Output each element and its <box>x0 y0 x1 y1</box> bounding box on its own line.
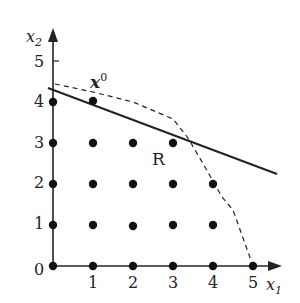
y-tick-label-3: 3 <box>34 133 44 152</box>
x-tick-label-3: 3 <box>168 273 178 292</box>
x-axis-label: x1 <box>266 275 282 297</box>
y-tick-label-5: 5 <box>34 52 44 71</box>
axes <box>48 28 282 271</box>
y-tick-label-2: 2 <box>34 173 44 192</box>
x0-point-label: x0 <box>89 71 107 92</box>
x-tick-label-1: 1 <box>88 273 98 292</box>
dashed-boundary-curve <box>55 84 253 266</box>
x-axis-arrow-icon <box>268 261 282 271</box>
y-tick-label-1: 1 <box>34 214 44 233</box>
x-tick-label-5: 5 <box>248 273 258 292</box>
origin-label: 0 <box>34 260 44 279</box>
region-label: R <box>152 149 166 169</box>
integer-programming-diagram: x2 x1 5 4 3 2 1 0 1 2 3 4 5 x0 R <box>0 0 300 303</box>
y-tick-label-4: 4 <box>34 92 44 111</box>
x-tick-label-2: 2 <box>128 273 138 292</box>
lattice-points <box>49 97 257 270</box>
y-axis-arrow-icon <box>48 28 58 42</box>
y-axis-label: x2 <box>26 27 42 49</box>
x-tick-label-4: 4 <box>208 273 218 292</box>
